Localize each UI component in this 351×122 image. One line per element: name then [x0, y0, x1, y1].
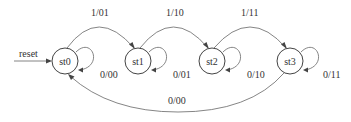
state-st1: st1	[125, 48, 151, 74]
transition-label-st0-st1: 1/01	[91, 7, 109, 18]
state-diagram: reset 1/01 1/10 1/11 0/00 0/00 0/01 0/10	[0, 0, 351, 122]
transition-label-st1-st2: 1/10	[166, 7, 184, 18]
state-label-st2: st2	[206, 56, 218, 67]
state-label-st1: st1	[132, 56, 144, 67]
self-loop-label-st3: 0/11	[323, 69, 340, 80]
self-loop-st1	[149, 47, 167, 72]
state-label-st0: st0	[59, 56, 71, 67]
state-st3: st3	[277, 48, 303, 74]
state-label-st3: st3	[284, 56, 296, 67]
state-st0: st0	[52, 48, 78, 74]
self-loop-label-st0: 0/00	[100, 69, 118, 80]
state-st2: st2	[199, 48, 225, 74]
transition-st1-st2	[140, 27, 209, 49]
transition-label-st2-st3: 1/11	[241, 7, 258, 18]
self-loop-label-st1: 0/01	[173, 69, 191, 80]
self-loop-st3	[301, 47, 319, 72]
self-loop-st2	[223, 47, 241, 72]
reset-label: reset	[19, 48, 38, 59]
self-loop-label-st2: 0/10	[247, 69, 265, 80]
transition-label-st3-st0: 0/00	[168, 95, 186, 106]
transition-st2-st3	[214, 27, 287, 49]
reset-arrow	[14, 59, 52, 64]
transition-st0-st1	[67, 27, 135, 49]
self-loop-st0	[76, 47, 94, 72]
